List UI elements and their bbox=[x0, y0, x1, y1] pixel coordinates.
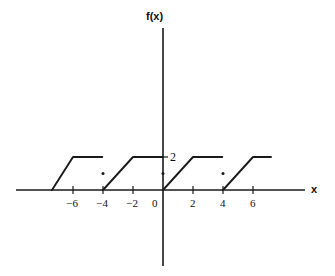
x-tick-label-2: 2 bbox=[190, 198, 196, 209]
dot-left bbox=[102, 172, 105, 175]
x-axis-label: x bbox=[311, 184, 317, 195]
y-value-label-2: 2 bbox=[170, 151, 176, 163]
x-tick-label-6: 6 bbox=[250, 198, 256, 209]
function-graph-figure: f(x) x 2 −6 −4 −2 0 2 4 6 bbox=[0, 0, 335, 276]
dot-right bbox=[222, 172, 225, 175]
curve-branch-right-outer bbox=[223, 157, 271, 190]
x-tick-label-0: 0 bbox=[152, 198, 158, 209]
x-tick-label--4: −4 bbox=[96, 198, 108, 209]
x-tick-label-4: 4 bbox=[220, 198, 226, 209]
curve-branch-left-inner bbox=[103, 157, 163, 190]
x-tick-label--6: −6 bbox=[66, 198, 78, 209]
dot-origin bbox=[162, 172, 165, 175]
plot-canvas bbox=[0, 0, 335, 276]
x-tick-label--2: −2 bbox=[126, 198, 138, 209]
curve-branch-left-outer bbox=[52, 157, 102, 190]
y-axis-label: f(x) bbox=[146, 11, 163, 22]
